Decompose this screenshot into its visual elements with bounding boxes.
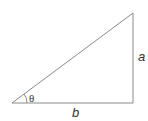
right-triangle-diagram: θ a b bbox=[0, 0, 148, 121]
side-a-label: a bbox=[138, 49, 145, 64]
angle-label: θ bbox=[29, 92, 34, 104]
hypotenuse bbox=[12, 13, 133, 103]
side-b-label: b bbox=[72, 105, 79, 120]
angle-arc bbox=[24, 94, 27, 103]
